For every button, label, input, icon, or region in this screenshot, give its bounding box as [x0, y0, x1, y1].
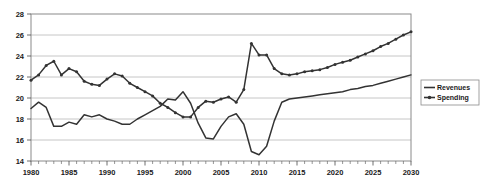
data-point-marker	[60, 73, 63, 76]
data-point-marker	[106, 78, 109, 81]
data-point-marker	[318, 68, 321, 71]
data-point-marker	[98, 84, 101, 87]
data-point-marker	[280, 72, 283, 75]
data-point-marker	[326, 66, 329, 69]
series-path	[31, 75, 411, 155]
y-axis-ticks	[27, 14, 31, 161]
data-point-marker	[296, 72, 299, 75]
chart-legend: RevenuesSpending	[421, 80, 479, 105]
series-lines	[30, 30, 413, 154]
chart-canvas: 1416182022242628 19801985199019952000200…	[0, 0, 484, 193]
data-point-marker	[394, 38, 397, 41]
data-point-marker	[372, 49, 375, 52]
data-point-marker	[364, 52, 367, 55]
data-point-marker	[410, 30, 413, 33]
data-point-marker	[45, 64, 48, 67]
y-axis-tick-labels: 1416182022242628	[16, 10, 25, 166]
data-point-marker	[204, 100, 207, 103]
y-tick-label: 28	[16, 10, 24, 19]
data-point-marker	[334, 63, 337, 66]
x-tick-label: 1980	[23, 168, 40, 177]
data-point-marker	[250, 42, 253, 45]
x-axis-minor-ticks	[31, 161, 411, 166]
gridlines	[31, 35, 411, 140]
data-point-marker	[121, 74, 124, 77]
data-point-marker	[189, 115, 192, 118]
x-axis-tick-labels: 1980198519901995200020052010201520202025…	[23, 168, 420, 177]
x-tick-label: 1995	[137, 168, 154, 177]
plot-frame	[31, 14, 411, 161]
data-point-marker	[341, 61, 344, 64]
x-tick-label: 2005	[213, 168, 230, 177]
data-point-marker	[311, 69, 314, 72]
x-tick-label: 2010	[251, 168, 268, 177]
data-point-marker	[159, 102, 162, 105]
x-tick-label: 2015	[289, 168, 306, 177]
data-point-marker	[151, 94, 154, 97]
y-tick-label: 16	[16, 136, 24, 145]
data-point-marker	[242, 88, 245, 91]
data-point-marker	[30, 79, 33, 82]
data-point-marker	[144, 90, 147, 93]
data-point-marker	[197, 106, 200, 109]
x-tick-label: 2000	[175, 168, 192, 177]
y-tick-label: 26	[16, 31, 24, 40]
y-tick-label: 22	[16, 73, 24, 82]
data-point-marker	[303, 70, 306, 73]
y-tick-label: 14	[16, 157, 25, 166]
data-point-marker	[75, 70, 78, 73]
x-tick-label: 2030	[403, 168, 420, 177]
data-point-marker	[52, 60, 55, 63]
y-tick-label: 24	[16, 52, 25, 61]
data-point-marker	[37, 73, 40, 76]
data-point-marker	[227, 95, 230, 98]
data-point-marker	[258, 53, 261, 56]
data-point-marker	[166, 106, 169, 109]
data-point-marker	[212, 101, 215, 104]
data-point-marker	[90, 83, 93, 86]
data-point-marker	[273, 67, 276, 70]
data-point-marker	[136, 86, 139, 89]
data-point-marker	[83, 80, 86, 83]
series-path	[31, 32, 411, 117]
data-point-marker	[288, 73, 291, 76]
legend-label: Revenues	[437, 84, 470, 91]
y-tick-label: 20	[16, 94, 24, 103]
data-point-marker	[68, 67, 71, 70]
series-spending	[30, 30, 413, 118]
data-point-marker	[402, 34, 405, 37]
data-point-marker	[356, 56, 359, 59]
x-tick-label: 2025	[365, 168, 382, 177]
data-point-marker	[182, 115, 185, 118]
x-tick-label: 2020	[327, 168, 344, 177]
chart-container: 1416182022242628 19801985199019952000200…	[0, 0, 484, 193]
data-point-marker	[387, 42, 390, 45]
legend-swatch-marker	[428, 96, 432, 100]
data-point-marker	[265, 53, 268, 56]
data-point-marker	[113, 72, 116, 75]
data-point-marker	[174, 111, 177, 114]
legend-label: Spending	[437, 94, 469, 102]
data-point-marker	[379, 45, 382, 48]
data-point-marker	[235, 101, 238, 104]
y-tick-label: 18	[16, 115, 24, 124]
x-tick-label: 1985	[61, 168, 78, 177]
data-point-marker	[349, 59, 352, 62]
x-tick-label: 1990	[99, 168, 116, 177]
series-revenues	[31, 75, 411, 155]
data-point-marker	[128, 82, 131, 85]
data-point-marker	[220, 98, 223, 101]
